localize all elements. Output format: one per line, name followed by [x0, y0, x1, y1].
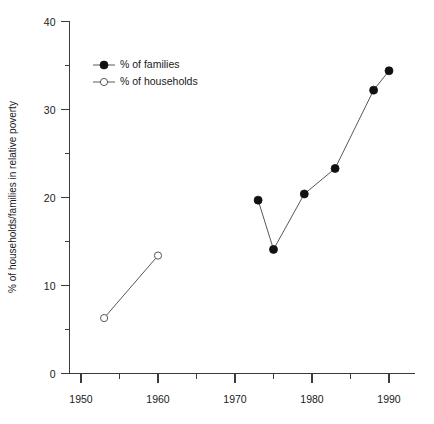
data-point [101, 314, 108, 321]
data-point [300, 190, 308, 198]
legend-label: % of families [120, 58, 180, 70]
x-tick-label: 1960 [146, 393, 170, 405]
data-point [270, 245, 278, 253]
y-tick-label: 20 [44, 192, 56, 204]
x-tick-label: 1950 [69, 393, 93, 405]
data-point [254, 196, 262, 204]
poverty-line-chart: 01020304019501960197019801990 % of house… [0, 0, 434, 424]
data-point [331, 164, 339, 172]
y-tick-label: 0 [50, 368, 56, 380]
x-tick-label: 1980 [300, 393, 324, 405]
legend-filled-circle-icon [100, 61, 108, 69]
legend-open-circle-icon [100, 78, 107, 85]
x-tick-label: 1990 [377, 393, 401, 405]
legend-label: % of households [120, 75, 198, 87]
y-axis-title: % of households/families in relative pov… [7, 101, 18, 293]
chart-background [0, 0, 434, 424]
data-point [370, 86, 378, 94]
y-tick-label: 30 [44, 104, 56, 116]
chart-container: 01020304019501960197019801990 % of house… [0, 0, 434, 424]
x-tick-label: 1970 [223, 393, 247, 405]
data-point [154, 252, 161, 259]
y-tick-label: 10 [44, 280, 56, 292]
y-tick-label: 40 [44, 16, 56, 28]
data-point [385, 67, 393, 75]
